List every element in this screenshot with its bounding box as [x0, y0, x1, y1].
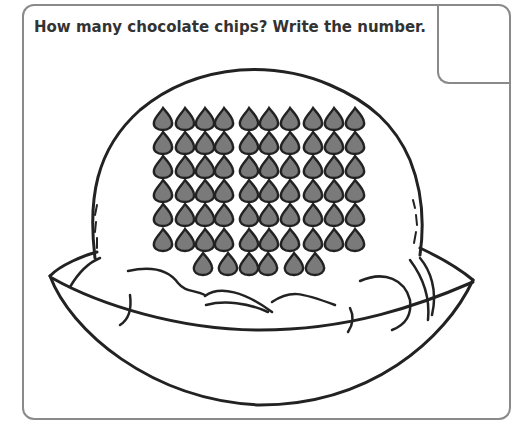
chocolate-chips: [154, 108, 364, 275]
scoop-outline: [93, 70, 423, 258]
ice-cream-bowl-illustration: [0, 0, 516, 434]
